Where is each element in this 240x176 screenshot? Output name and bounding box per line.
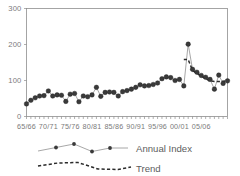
data-point-marker bbox=[50, 94, 55, 99]
data-point-marker bbox=[24, 102, 29, 107]
data-point-marker bbox=[199, 73, 204, 78]
data-point-marker bbox=[186, 42, 191, 47]
data-point-marker bbox=[225, 79, 230, 84]
data-point-marker bbox=[55, 93, 60, 98]
y-axis-tick-label: 300 bbox=[8, 4, 21, 13]
data-point-marker bbox=[221, 81, 226, 86]
chart-container: 0100200300 65/6670/7175/7680/8185/8690/9… bbox=[0, 0, 240, 176]
x-axis-tick-label: 00/01 bbox=[170, 122, 189, 131]
legend-annual-marker bbox=[108, 146, 112, 150]
data-point-marker bbox=[160, 76, 165, 81]
data-point-marker bbox=[98, 94, 103, 99]
data-point-marker bbox=[59, 93, 64, 98]
legend-label-trend: Trend bbox=[136, 163, 161, 174]
data-point-marker bbox=[203, 75, 208, 80]
data-point-marker bbox=[216, 73, 221, 78]
legend-annual-marker bbox=[54, 146, 58, 150]
data-point-marker bbox=[90, 93, 95, 98]
data-point-marker bbox=[46, 89, 51, 94]
data-point-marker bbox=[133, 85, 138, 90]
x-axis-tick-label: 70/71 bbox=[39, 122, 58, 131]
data-point-marker bbox=[68, 92, 73, 97]
y-axis-tick-label: 200 bbox=[8, 40, 21, 49]
data-point-marker bbox=[155, 81, 160, 86]
data-point-marker bbox=[116, 94, 121, 99]
data-point-marker bbox=[173, 78, 178, 83]
data-point-marker bbox=[77, 99, 82, 104]
index-trend-line-chart: 0100200300 65/6670/7175/7680/8185/8690/9… bbox=[0, 0, 240, 176]
data-point-marker bbox=[103, 90, 108, 95]
data-point-marker bbox=[94, 85, 99, 90]
data-point-marker bbox=[81, 94, 86, 99]
data-point-marker bbox=[33, 95, 38, 100]
data-point-marker bbox=[195, 70, 200, 75]
data-point-marker bbox=[72, 91, 77, 96]
data-point-marker bbox=[151, 82, 156, 87]
data-point-marker bbox=[138, 83, 143, 88]
data-point-marker bbox=[190, 67, 195, 72]
data-point-marker bbox=[29, 98, 34, 103]
data-point-marker bbox=[147, 83, 152, 88]
x-axis-tick-label: 80/81 bbox=[83, 122, 102, 131]
data-point-marker bbox=[42, 93, 47, 98]
data-point-marker bbox=[177, 77, 182, 82]
x-axis-tick-label: 90/91 bbox=[126, 122, 145, 131]
data-point-marker bbox=[212, 87, 217, 92]
x-axis-labels: 65/6670/7175/7680/8185/8690/9195/9600/01… bbox=[17, 122, 211, 131]
data-point-marker bbox=[168, 75, 173, 80]
data-point-marker bbox=[85, 94, 90, 99]
data-point-marker bbox=[164, 75, 169, 80]
data-point-marker bbox=[107, 90, 112, 95]
data-point-marker bbox=[125, 88, 130, 93]
x-axis-tick-label: 75/76 bbox=[61, 122, 80, 131]
x-axis-tick-label: 85/86 bbox=[104, 122, 123, 131]
data-point-marker bbox=[64, 99, 69, 104]
data-point-marker bbox=[182, 84, 187, 89]
legend-label-annual-index: Annual Index bbox=[136, 143, 192, 154]
legend-annual-marker bbox=[72, 142, 76, 146]
data-point-marker bbox=[120, 89, 125, 94]
x-axis-tick-label: 05/06 bbox=[192, 122, 211, 131]
x-axis-tick-label: 95/96 bbox=[148, 122, 167, 131]
y-axis-tick-label: 0 bbox=[17, 112, 21, 121]
data-point-marker bbox=[208, 77, 213, 82]
y-axis-tick-label: 100 bbox=[8, 76, 21, 85]
legend-annual-marker bbox=[90, 150, 94, 154]
data-point-marker bbox=[37, 94, 42, 99]
data-point-marker bbox=[129, 87, 134, 92]
data-point-marker bbox=[112, 90, 117, 95]
x-axis-tick-label: 65/66 bbox=[17, 122, 36, 131]
chart-background bbox=[0, 0, 240, 176]
data-point-marker bbox=[142, 84, 147, 89]
